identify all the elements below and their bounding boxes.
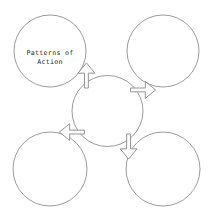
node-circle-bottom-left[interactable] [13,132,87,206]
diagram-canvas: Patterns of Action [0,0,214,222]
center-hub-circle[interactable] [72,76,143,147]
concept-map-diagram: Patterns of Action [0,0,214,222]
node-circle-bottom-right[interactable] [126,132,200,206]
node-label-top-left-line1: Patterns of [27,49,74,57]
node-label-top-left-line2: Action [37,58,63,66]
node-circle-top-right[interactable] [127,15,199,87]
